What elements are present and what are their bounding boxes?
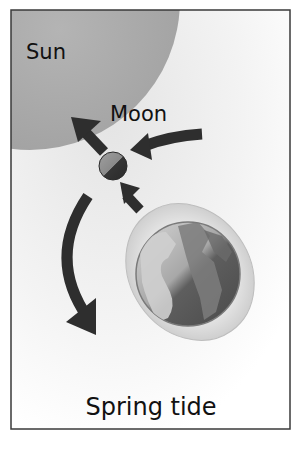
- moon-body: [99, 152, 127, 180]
- frame-content: [0, 0, 290, 429]
- sun-label: Sun: [26, 40, 66, 64]
- moon-label: Moon: [110, 102, 167, 126]
- spring-tide-diagram: Sun Moon Spring tide: [0, 0, 296, 451]
- diagram-caption: Spring tide: [0, 393, 296, 421]
- diagram-canvas: [0, 0, 296, 451]
- earth: [136, 222, 240, 326]
